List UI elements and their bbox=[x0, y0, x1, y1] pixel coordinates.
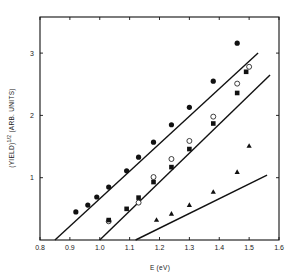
x-tick-label: 1.5 bbox=[244, 244, 254, 251]
x-tick-label: 1.2 bbox=[155, 244, 165, 251]
filled-square-marker bbox=[106, 218, 111, 223]
x-tick-label: 0.8 bbox=[35, 244, 45, 251]
plot-frame bbox=[40, 17, 279, 240]
filled-triangle-marker bbox=[235, 169, 240, 174]
fit-line bbox=[55, 53, 258, 240]
filled-circle-marker bbox=[169, 122, 174, 127]
filled-circle-marker bbox=[187, 105, 192, 110]
svg-text:(YIELD)1/2 (ARB. UNITS): (YIELD)1/2 (ARB. UNITS) bbox=[6, 88, 16, 168]
open-circle-marker bbox=[235, 81, 240, 86]
filled-circle-marker bbox=[124, 168, 129, 173]
y-axis-title-main: (YIELD) bbox=[8, 143, 16, 168]
filled-triangle-marker bbox=[154, 217, 159, 222]
filled-circle-marker bbox=[235, 41, 240, 46]
axis-ticks: 0.80.91.01.11.21.31.41.51.6123 bbox=[30, 17, 284, 251]
x-tick-label: 0.9 bbox=[65, 244, 75, 251]
filled-square-marker bbox=[187, 147, 192, 152]
yield-vs-energy-chart: 0.80.91.01.11.21.31.41.51.6123 E (eV) (Y… bbox=[0, 0, 295, 278]
filled-square-marker bbox=[124, 207, 129, 212]
x-tick-label: 1.4 bbox=[214, 244, 224, 251]
fit-line bbox=[136, 175, 267, 240]
filled-circle-marker bbox=[94, 194, 99, 199]
filled-circle-marker bbox=[85, 203, 90, 208]
open-circle-marker bbox=[169, 157, 174, 162]
y-axis-title-units: (ARB. UNITS) bbox=[8, 88, 16, 132]
filled-square-marker bbox=[136, 195, 141, 200]
filled-square-marker bbox=[151, 180, 156, 185]
filled-square-marker bbox=[211, 121, 216, 126]
y-tick-label: 2 bbox=[30, 112, 34, 119]
filled-circle-marker bbox=[211, 79, 216, 84]
y-tick-label: 1 bbox=[30, 174, 34, 181]
open-circle-marker bbox=[211, 114, 216, 119]
filled-circle-marker bbox=[73, 209, 78, 214]
x-tick-label: 1.1 bbox=[125, 244, 135, 251]
filled-triangle-marker bbox=[169, 211, 174, 216]
filled-square-marker bbox=[244, 69, 249, 74]
open-circle-marker bbox=[151, 175, 156, 180]
filled-circle-marker bbox=[151, 140, 156, 145]
filled-circle-marker bbox=[136, 155, 141, 160]
plot-border bbox=[40, 17, 279, 240]
x-tick-label: 1.6 bbox=[274, 244, 284, 251]
filled-circle-marker bbox=[106, 184, 111, 189]
filled-triangle-marker bbox=[211, 189, 216, 194]
y-axis-title-exponent: 1/2 bbox=[6, 135, 12, 143]
open-circle-marker bbox=[136, 200, 141, 205]
filled-triangle-marker bbox=[187, 202, 192, 207]
x-tick-label: 1.3 bbox=[185, 244, 195, 251]
filled-square-marker bbox=[235, 91, 240, 96]
filled-triangle-marker bbox=[247, 143, 252, 148]
open-circle-marker bbox=[247, 64, 252, 69]
x-tick-label: 1.0 bbox=[95, 244, 105, 251]
x-axis-title: E (eV) bbox=[150, 264, 170, 272]
y-tick-label: 3 bbox=[30, 50, 34, 57]
open-circle-marker bbox=[187, 138, 192, 143]
filled-square-marker bbox=[169, 165, 174, 170]
y-axis-title: (YIELD)1/2 (ARB. UNITS) bbox=[6, 88, 16, 168]
